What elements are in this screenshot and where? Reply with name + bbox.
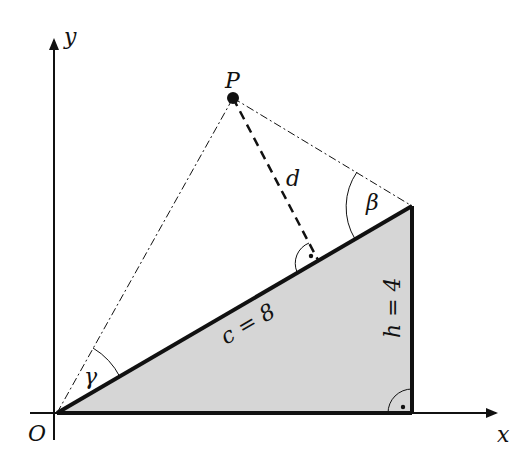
y-axis-label: y: [63, 24, 77, 49]
geometry-diagram: y x O P d β γ c = 8 h = 4: [0, 0, 531, 459]
line-p-vertex: [233, 98, 412, 206]
x-axis-label: x: [497, 422, 510, 447]
angle-beta-label: β: [365, 190, 379, 215]
right-angle-dot: [309, 254, 313, 258]
origin-label: O: [28, 421, 46, 446]
right-angle-corner-dot: [401, 405, 405, 409]
distance-d: [233, 98, 318, 260]
angle-gamma-label: γ: [84, 364, 98, 389]
point-p: [227, 92, 239, 104]
angle-beta-arc: [346, 172, 357, 239]
height-label: h = 4: [380, 277, 405, 338]
distance-d-label: d: [286, 166, 300, 191]
point-p-label: P: [224, 68, 241, 93]
